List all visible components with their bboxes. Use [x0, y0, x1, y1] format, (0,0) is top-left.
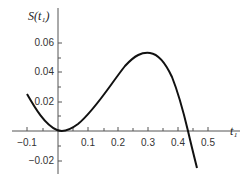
- y-tick-label: 0.06: [35, 37, 55, 48]
- y-axis-label: S(t₁): [28, 9, 50, 23]
- chart: −0.1 0.1 0.2 0.3 0.4 0.5 0.06 0.04 0.02 …: [0, 0, 251, 184]
- y-tick-label: 0.04: [35, 66, 55, 77]
- x-tick-labels: −0.1 0.1 0.2 0.3 0.4 0.5: [17, 137, 215, 148]
- x-tick-label: 0.2: [111, 137, 125, 148]
- x-tick-label: −0.1: [17, 137, 37, 148]
- x-tick-label: 0.5: [201, 137, 215, 148]
- y-ticks: [58, 43, 62, 161]
- x-axis-label: t₁: [230, 124, 238, 138]
- y-tick-label: 0.02: [35, 96, 55, 107]
- x-tick-label: 0.4: [171, 137, 185, 148]
- x-tick-label: 0.1: [81, 137, 95, 148]
- x-tick-label: 0.3: [141, 137, 155, 148]
- y-tick-label: −0.02: [29, 155, 55, 166]
